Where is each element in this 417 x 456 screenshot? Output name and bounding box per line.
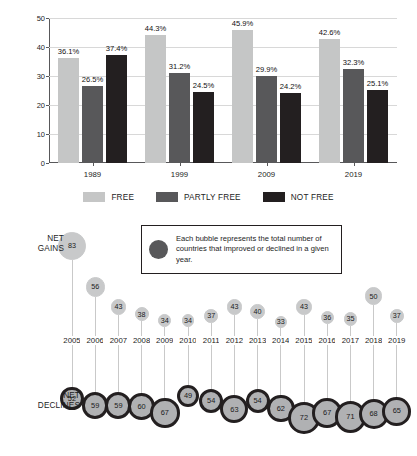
bar-2009-not-free: [280, 93, 301, 163]
net-gains-bubble-2016: 36: [321, 311, 334, 324]
x-axis-tick-mark: [180, 163, 181, 166]
net-gains-bubble-2012: 43: [227, 299, 243, 315]
net-declines-bubble-value: 63: [230, 406, 238, 413]
bubble-legend-dot-icon: [149, 240, 168, 259]
net-gains-label-line2: GAINS: [14, 244, 64, 254]
net-gains-bubble-value: 36: [323, 314, 331, 321]
bar-value-label: 24.2%: [268, 82, 314, 91]
legend-swatch-not-free: [263, 192, 285, 202]
net-gains-bubble-value: 56: [91, 283, 99, 290]
net-gains-bubble-value: 43: [114, 303, 122, 310]
bar-2009-free: [232, 30, 253, 163]
net-gains-bubble-value: 37: [393, 312, 401, 319]
y-axis-tick-label: 20: [37, 101, 45, 110]
bubble-legend-text: Each bubble represents the total number …: [176, 234, 334, 266]
net-declines-label: NET DECLINES: [4, 391, 80, 410]
bar-value-label: 37.4%: [94, 44, 140, 53]
net-declines-bubble-value: 62: [277, 405, 285, 412]
bar-value-label: 29.9%: [244, 65, 290, 74]
net-gains-label: NET GAINS: [14, 234, 64, 253]
bar-value-label: 36.1%: [46, 47, 92, 56]
net-declines-label-line2: DECLINES: [4, 401, 80, 411]
net-gains-bubble-value: 50: [370, 293, 378, 300]
x-axis-tick-label: 2009: [237, 170, 297, 179]
y-axis-tick-label: 30: [37, 72, 45, 81]
net-declines-bubble-value: 54: [207, 397, 215, 404]
net-declines-bubble-value: 65: [393, 407, 401, 414]
net-gains-bubble-value: 43: [230, 303, 238, 310]
net-declines-bubble-value: 68: [369, 410, 377, 417]
infographic-canvas: Percentage of Countries 0102030405036.1%…: [0, 0, 417, 456]
bubble-chart-legend-box: Each bubble represents the total number …: [141, 225, 342, 274]
net-declines-bubble-value: 72: [300, 414, 308, 421]
net-gains-bubble-2015: 43: [296, 299, 312, 315]
net-gains-bubble-2006: 56: [86, 277, 105, 296]
x-axis-tick-label: 2019: [324, 170, 384, 179]
y-axis-tick-label: 40: [37, 43, 45, 52]
net-gains-bubble-2017: 35: [344, 312, 357, 325]
bubble-stem-2007: [118, 315, 119, 393]
bubble-stem-2018: [373, 305, 374, 399]
net-declines-bubble-value: 54: [253, 397, 261, 404]
bar-value-label: 25.1%: [355, 79, 401, 88]
bubble-chart: 2005200620072008200920102011201220132014…: [0, 212, 417, 456]
bubble-stem-2005: [72, 260, 73, 387]
bar-1989-free: [58, 58, 79, 163]
bar-value-label: 31.2%: [157, 62, 203, 71]
net-declines-bubble-value: 59: [114, 402, 122, 409]
legend-item-not-free: NOT FREE: [263, 192, 334, 202]
net-declines-bubble-value: 60: [137, 403, 145, 410]
bar-chart-y-axis-label: Percentage of Countries: [4, 0, 16, 22]
net-gains-bubble-value: 83: [68, 242, 76, 249]
x-axis-tick-mark: [354, 163, 355, 166]
net-gains-bubble-2009: 34: [158, 314, 171, 327]
bar-value-label: 42.6%: [307, 28, 353, 37]
net-gains-bubble-value: 43: [300, 303, 308, 310]
net-gains-bubble-2008: 38: [135, 307, 149, 321]
net-gains-bubble-2011: 37: [204, 309, 218, 323]
net-gains-bubble-2010: 34: [182, 314, 195, 327]
y-axis-tick-mark: [46, 134, 49, 135]
bar-value-label: 44.3%: [133, 24, 179, 33]
net-declines-label-line1: NET: [4, 391, 80, 401]
net-gains-bubble-value: 35: [346, 315, 354, 322]
bar-chart-plot-area: 0102030405036.1%26.5%37.4%198944.3%31.2%…: [49, 18, 397, 163]
x-axis-tick-label: 1999: [150, 170, 210, 179]
bubble-stem-2015: [304, 315, 305, 402]
y-axis-line: [49, 18, 50, 163]
y-axis-tick-label: 10: [37, 130, 45, 139]
bar-2019-not-free: [367, 90, 388, 163]
net-declines-bubble-2013: 54: [246, 389, 270, 413]
x-axis-tick-label: 1989: [63, 170, 123, 179]
y-axis-tick-mark: [46, 163, 49, 164]
net-gains-bubble-value: 37: [207, 312, 215, 319]
y-axis-tick-label: 0: [41, 159, 45, 168]
bubble-stem-2019: [396, 323, 397, 397]
bar-1999-not-free: [193, 92, 214, 163]
net-declines-bubble-2012: 63: [220, 395, 248, 423]
bubble-stem-2012: [234, 315, 235, 396]
x-axis-tick-mark: [93, 163, 94, 166]
legend-swatch-free: [83, 192, 105, 202]
net-gains-bubble-value: 33: [277, 318, 285, 325]
net-gains-bubble-2007: 43: [111, 299, 127, 315]
y-axis-tick-label: 50: [37, 14, 45, 23]
bar-chart-legend: FREE PARTLY FREE NOT FREE: [0, 192, 417, 202]
x-axis-tick-mark: [267, 163, 268, 166]
y-axis-tick-mark: [46, 76, 49, 77]
y-axis-tick-mark: [46, 105, 49, 106]
legend-item-free: FREE: [83, 192, 134, 202]
net-gains-label-line1: NET: [14, 234, 64, 244]
bubble-stem-2008: [141, 321, 142, 393]
net-declines-bubble-value: 59: [91, 402, 99, 409]
net-gains-bubble-2013: 40: [250, 304, 265, 319]
y-axis-tick-mark: [46, 18, 49, 19]
bar-1989-not-free: [106, 55, 127, 163]
net-gains-bubble-value: 34: [161, 317, 169, 324]
net-declines-bubble-2019: 65: [382, 397, 411, 426]
net-declines-bubble-value: 49: [184, 392, 192, 399]
bar-chart: Percentage of Countries 0102030405036.1%…: [0, 0, 417, 212]
legend-swatch-partly-free: [156, 192, 178, 202]
legend-label-not-free: NOT FREE: [291, 193, 334, 202]
net-declines-bubble-value: 71: [346, 413, 354, 420]
